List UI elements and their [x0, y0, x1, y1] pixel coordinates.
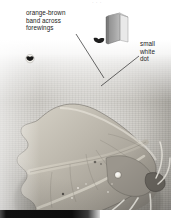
book-spine — [106, 16, 108, 44]
field-guide-book-icon — [104, 11, 130, 46]
moth-silhouette-icon — [93, 37, 105, 44]
field-guide-page: · · · — [0, 0, 171, 218]
moth-silhouette-scale-icon — [25, 54, 35, 66]
callout-leader-lines — [0, 0, 171, 218]
callout-small-white-dot: small white dot — [140, 40, 170, 63]
book-cover — [108, 13, 120, 44]
callout-orange-brown-band: orange-brown band across forewings — [26, 9, 78, 32]
bottom-black-bar — [0, 210, 100, 218]
book-pages — [119, 14, 128, 42]
moth-silhouette-body — [94, 38, 105, 43]
leader-line-white-dot — [101, 56, 139, 86]
